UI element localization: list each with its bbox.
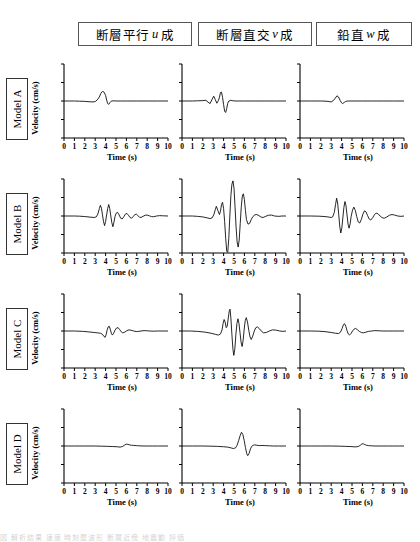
waveform-panel-model-a-col2: -200-1000100200012345678910Time (s) [178, 62, 302, 158]
waveform-panel-model-b-col2: -200-1000100200012345678910Time (s) [178, 177, 302, 273]
x-tick-label: 3 [329, 372, 333, 381]
x-tick-label: 10 [164, 142, 172, 151]
waveform-trace [300, 198, 404, 233]
waveform-panel-model-b-col1: -200-1000100200012345678910Time (s) [60, 177, 184, 273]
x-tick-label: 5 [232, 372, 236, 381]
x-tick-label: 3 [93, 142, 97, 151]
x-tick-label: 0 [180, 372, 184, 381]
x-axis-label: Time (s) [178, 497, 302, 507]
x-axis-label: Time (s) [296, 267, 420, 277]
x-tick-label: 9 [156, 372, 160, 381]
x-tick-label: 4 [222, 257, 226, 266]
x-tick-label: 2 [319, 142, 323, 151]
x-tick-label: 2 [83, 372, 87, 381]
x-tick-label: 5 [114, 487, 118, 496]
x-axis-label: Time (s) [60, 267, 184, 277]
x-tick-label: 9 [274, 487, 278, 496]
row-label-model-d: Model D [6, 423, 28, 485]
x-tick-label: 1 [73, 142, 77, 151]
x-axis-label: Time (s) [296, 497, 420, 507]
x-tick-label: 4 [104, 257, 108, 266]
x-axis-label: Time (s) [178, 152, 302, 162]
x-tick-label: 8 [263, 257, 267, 266]
waveform-plot: -200-1000100200012345678910 [178, 62, 302, 158]
x-tick-label: 2 [319, 372, 323, 381]
x-tick-label: 7 [253, 142, 257, 151]
x-tick-label: 6 [125, 372, 129, 381]
x-tick-label: 7 [135, 372, 139, 381]
figure-caption-partial: 図 解析結果 速度 時刻歴波形 断層近傍 地震動 評価 [0, 526, 420, 542]
x-tick-label: 9 [392, 372, 396, 381]
x-tick-label: 3 [329, 142, 333, 151]
x-axis-label: Time (s) [60, 382, 184, 392]
x-tick-label: 1 [309, 257, 313, 266]
x-tick-label: 10 [282, 142, 290, 151]
x-tick-label: 9 [156, 487, 160, 496]
x-tick-label: 8 [381, 487, 385, 496]
x-axis-label: Time (s) [296, 152, 420, 162]
y-axis-label-row-d: Velocity (cm/s) [28, 413, 42, 493]
x-tick-label: 1 [309, 142, 313, 151]
x-tick-label: 1 [191, 372, 195, 381]
x-tick-label: 3 [93, 372, 97, 381]
waveform-panel-model-d-col3: -200-1000100200012345678910Time (s) [296, 407, 420, 503]
x-tick-label: 6 [125, 487, 129, 496]
x-tick-label: 9 [274, 372, 278, 381]
x-tick-label: 6 [243, 257, 247, 266]
x-tick-label: 7 [253, 372, 257, 381]
seismic-waveform-figure: 断層平行u成 断層直交v成 鉛直w成 Model A Model B Model… [0, 0, 420, 542]
x-tick-label: 0 [180, 257, 184, 266]
x-tick-label: 3 [211, 142, 215, 151]
figure-caption-partial-text: 図 解析結果 速度 時刻歴波形 断層近傍 地震動 評価 [0, 532, 185, 542]
waveform-panel-model-c-col3: -200-1000100200012345678910Time (s) [296, 292, 420, 388]
x-tick-label: 6 [243, 487, 247, 496]
waveform-plot: -200-1000100200012345678910 [178, 177, 302, 273]
x-tick-label: 9 [274, 142, 278, 151]
x-tick-label: 4 [222, 372, 226, 381]
x-axis-label: Time (s) [60, 152, 184, 162]
row-label-model-d-text: Model D [11, 434, 23, 473]
x-axis-label: Time (s) [178, 267, 302, 277]
x-tick-label: 2 [201, 257, 205, 266]
waveform-panel-model-c-col1: -200-1000100200012345678910Time (s) [60, 292, 184, 388]
x-tick-label: 0 [298, 487, 302, 496]
y-axis-label-row-c: Velocity (cm/s) [28, 298, 42, 378]
x-tick-label: 0 [180, 142, 184, 151]
x-tick-label: 2 [201, 142, 205, 151]
x-tick-label: 1 [191, 142, 195, 151]
x-tick-label: 0 [62, 487, 66, 496]
y-axis-label-row-b-text: Velocity (cm/s) [30, 196, 40, 249]
y-axis-label-row-b: Velocity (cm/s) [28, 183, 42, 263]
x-tick-label: 6 [125, 142, 129, 151]
x-tick-label: 1 [73, 487, 77, 496]
x-tick-label: 4 [340, 487, 344, 496]
column-header-w-suffix: 成 [377, 25, 391, 44]
x-tick-label: 6 [361, 257, 365, 266]
x-tick-label: 9 [156, 257, 160, 266]
x-tick-label: 0 [298, 372, 302, 381]
x-tick-label: 4 [104, 142, 108, 151]
x-tick-label: 3 [329, 257, 333, 266]
x-tick-label: 7 [135, 142, 139, 151]
x-tick-label: 5 [350, 257, 354, 266]
x-tick-label: 4 [340, 257, 344, 266]
x-tick-label: 5 [232, 257, 236, 266]
x-tick-label: 7 [371, 257, 375, 266]
x-tick-label: 1 [309, 372, 313, 381]
y-axis-label-row-a-text: Velocity (cm/s) [30, 81, 40, 134]
x-tick-label: 6 [361, 372, 365, 381]
column-header-v-suffix: 成 [280, 25, 294, 44]
x-tick-label: 5 [350, 487, 354, 496]
x-tick-label: 0 [298, 257, 302, 266]
column-header-u-suffix: 成 [161, 25, 175, 44]
waveform-panel-model-c-col2: -200-1000100200012345678910Time (s) [178, 292, 302, 388]
x-tick-label: 5 [114, 257, 118, 266]
x-tick-label: 0 [298, 142, 302, 151]
x-tick-label: 7 [135, 257, 139, 266]
x-tick-label: 9 [274, 257, 278, 266]
x-axis-label: Time (s) [296, 382, 420, 392]
x-tick-label: 8 [145, 487, 149, 496]
x-tick-label: 1 [73, 372, 77, 381]
x-tick-label: 5 [114, 142, 118, 151]
waveform-trace [64, 205, 168, 227]
